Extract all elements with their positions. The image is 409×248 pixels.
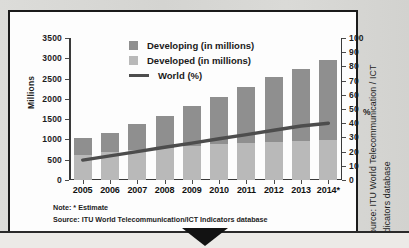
x-tick-mark <box>165 180 166 184</box>
right-tick-label: 50 <box>349 104 359 114</box>
right-tick-label: 20 <box>349 147 359 157</box>
left-tick-mark <box>65 180 69 181</box>
right-tick-label: 100 <box>349 33 364 43</box>
x-tick-mark <box>274 180 275 184</box>
pointer-triangle-icon <box>182 228 228 246</box>
x-tick-label: 2009 <box>182 185 202 195</box>
x-tick-label: 2007 <box>127 185 147 195</box>
left-tick-label: 2500 <box>42 74 62 84</box>
right-tick-mark <box>342 137 346 138</box>
right-tick-label: 0 <box>349 175 354 185</box>
x-tick-label: 2011 <box>237 185 256 195</box>
right-tick-mark <box>342 52 346 53</box>
right-tick-mark <box>342 38 346 39</box>
left-tick-label: 3500 <box>42 33 62 43</box>
left-tick-label: 1500 <box>42 114 62 124</box>
x-tick-mark <box>301 180 302 184</box>
right-tick-label: 70 <box>349 76 359 86</box>
note-estimate: Note: * Estimate <box>53 202 268 214</box>
right-tick-label: 30 <box>349 132 359 142</box>
chart-panel: Millions % Developing (in millions) Deve… <box>8 10 358 234</box>
right-tick-mark <box>342 180 346 181</box>
left-tick-label: 500 <box>47 155 62 165</box>
left-tick-label: 0 <box>57 175 62 185</box>
plot-area: 0500100015002000250030003500 01020304050… <box>69 38 342 180</box>
left-tick-label: 2000 <box>42 94 62 104</box>
x-tick-label: 2008 <box>155 185 175 195</box>
x-tick-mark <box>328 180 329 184</box>
right-tick-label: 10 <box>349 161 359 171</box>
right-tick-mark <box>342 109 346 110</box>
x-tick-label: 2014* <box>317 185 340 195</box>
world-percent-line <box>69 38 342 180</box>
chart-footnotes: Note: * Estimate Source: ITU World Telec… <box>53 202 268 226</box>
x-tick-mark <box>219 180 220 184</box>
left-tick-label: 3000 <box>42 53 62 63</box>
right-tick-mark <box>342 81 346 82</box>
x-tick-label: 2005 <box>73 185 93 195</box>
left-tick-label: 1000 <box>42 134 62 144</box>
right-tick-label: 90 <box>349 47 359 57</box>
x-tick-mark <box>192 180 193 184</box>
right-tick-label: 60 <box>349 90 359 100</box>
right-tick-mark <box>342 95 346 96</box>
right-tick-mark <box>342 66 346 67</box>
side-source-line-1: Source: ITU World Telecommunication / IC… <box>368 65 378 240</box>
x-tick-label: 2012 <box>264 185 284 195</box>
x-tick-label: 2010 <box>209 185 229 195</box>
right-tick-label: 80 <box>349 61 359 71</box>
right-tick-mark <box>342 152 346 153</box>
left-axis-title: Millions <box>26 76 36 109</box>
right-tick-mark <box>342 123 346 124</box>
right-tick-mark <box>342 166 346 167</box>
right-tick-label: 40 <box>349 118 359 128</box>
x-tick-mark <box>83 180 84 184</box>
x-tick-label: 2006 <box>100 185 120 195</box>
side-source-line-2: Indicators database <box>382 161 392 240</box>
x-tick-mark <box>246 180 247 184</box>
side-source-caption: Source: ITU World Telecommunication / IC… <box>364 8 404 240</box>
x-tick-mark <box>137 180 138 184</box>
note-source: Source: ITU World Telecommunication/ICT … <box>53 214 268 226</box>
x-tick-label: 2013 <box>291 185 311 195</box>
x-tick-mark <box>110 180 111 184</box>
